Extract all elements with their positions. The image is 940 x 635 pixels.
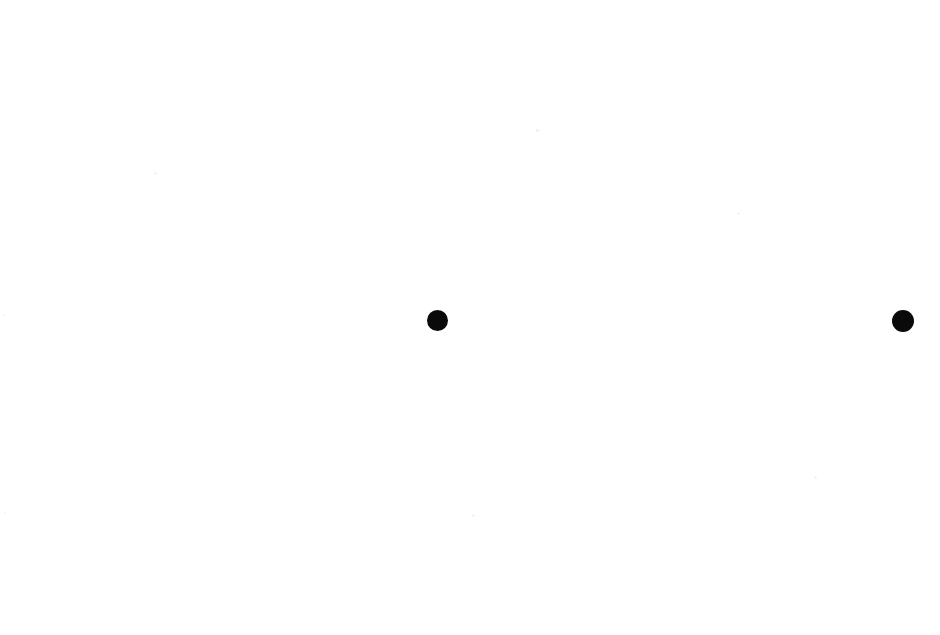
artifact-speck-4 (472, 514, 475, 517)
artifact-speck-5 (814, 476, 817, 479)
artifact-speck-3 (737, 212, 740, 215)
black-dot-left (427, 310, 448, 331)
page-canvas (0, 0, 940, 635)
artifact-speck-6 (3, 314, 5, 316)
artifact-speck-1 (154, 172, 157, 175)
artifact-speck-7 (4, 512, 6, 514)
black-dot-right (892, 310, 914, 332)
artifact-speck-2 (536, 129, 539, 132)
